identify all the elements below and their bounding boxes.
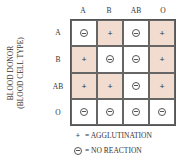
legend-agglutination-text: = AGGLUTINATION (85, 131, 152, 140)
plus-icon: + (81, 54, 86, 64)
legend-no-reaction: = NO REACTION (74, 146, 142, 155)
legend-no-reaction-text: = NO REACTION (85, 146, 142, 155)
row-header-a: A (50, 28, 66, 37)
minus-circle-icon (80, 29, 88, 37)
minus-circle-icon (80, 108, 88, 116)
plus-icon: + (74, 131, 82, 140)
minus-circle-icon (74, 147, 82, 155)
minus-circle-icon (132, 108, 140, 116)
minus-circle-icon (132, 29, 140, 37)
side-label-line2: (BLOOD CELL TYPE) (16, 37, 26, 109)
minus-circle-icon (132, 55, 140, 63)
column-header-ab: AB (123, 6, 149, 15)
plus-icon: + (107, 28, 112, 38)
grid-cell: + (97, 73, 123, 99)
minus-circle-icon (158, 108, 166, 116)
grid-cell: + (149, 73, 175, 99)
grid-cell (71, 99, 97, 125)
grid-cell (149, 99, 175, 125)
legend-agglutination: + = AGGLUTINATION (74, 131, 152, 140)
grid-cell: + (149, 20, 175, 46)
grid-cell: + (149, 46, 175, 72)
side-axis-label: BLOOD DONOR (BLOOD CELL TYPE) (6, 37, 26, 109)
column-header-o: O (150, 6, 176, 15)
plus-icon: + (81, 81, 86, 91)
minus-circle-icon (106, 108, 114, 116)
grid-cell (71, 20, 97, 46)
grid-cell: + (71, 73, 97, 99)
compatibility-grid: +++++++ (70, 19, 176, 126)
column-header-b: B (96, 6, 122, 15)
grid-cell (123, 20, 149, 46)
grid-cell (97, 46, 123, 72)
side-label-line1: BLOOD DONOR (6, 37, 16, 109)
column-header-a: A (70, 6, 96, 15)
row-header-b: B (50, 55, 66, 64)
row-header-ab: AB (50, 82, 66, 91)
plus-icon: + (159, 54, 164, 64)
grid-cell (123, 99, 149, 125)
minus-circle-icon (106, 55, 114, 63)
grid-cell: + (97, 20, 123, 46)
grid-cell (123, 73, 149, 99)
grid-cell (123, 46, 149, 72)
grid-cell (97, 99, 123, 125)
row-header-o: O (50, 108, 66, 117)
plus-icon: + (159, 28, 164, 38)
minus-circle-icon (132, 82, 140, 90)
grid-cell: + (71, 46, 97, 72)
plus-icon: + (107, 81, 112, 91)
plus-icon: + (159, 81, 164, 91)
